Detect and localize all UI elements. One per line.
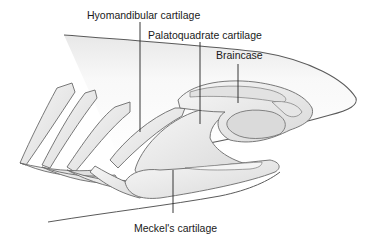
shark-skull-diagram: Hyomandibular cartilage Palatoquadrate c…: [0, 0, 368, 239]
braincase-label: Braincase: [216, 49, 263, 61]
meckels-label: Meckel's cartilage: [134, 222, 217, 234]
hyomandibular-label: Hyomandibular cartilage: [87, 9, 200, 21]
palatoquadrate-label: Palatoquadrate cartilage: [148, 29, 262, 41]
